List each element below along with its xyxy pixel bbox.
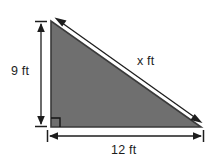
vertical-dimension-arrowhead-up-icon: [37, 23, 45, 32]
horizontal-leg-label: 12 ft: [111, 144, 136, 157]
triangle-shape: [51, 21, 201, 127]
vertical-dimension-arrowhead-down-icon: [37, 116, 45, 125]
horizontal-dimension-line: [48, 130, 204, 142]
right-triangle-figure: 9 ft x ft 12 ft: [0, 0, 222, 164]
horizontal-dimension-arrowhead-right-icon: [193, 132, 202, 140]
hypotenuse-label: x ft: [137, 55, 154, 68]
triangle-diagram-canvas: [0, 0, 222, 164]
vertical-dimension-line: [35, 22, 47, 127]
horizontal-dimension-arrowhead-left-icon: [49, 132, 58, 140]
vertical-leg-label: 9 ft: [11, 65, 29, 78]
